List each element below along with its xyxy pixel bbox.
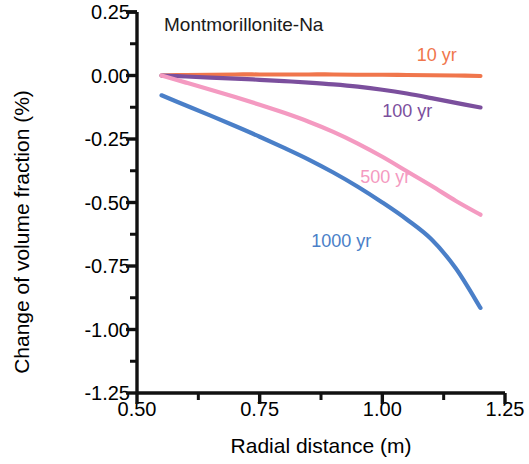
series-label-10-yr: 10 yr [417,45,457,66]
series-label-1000-yr: 1000 yr [311,231,371,252]
series-label-500-yr: 500 yr [360,167,410,188]
series-label-100-yr: 100 yr [382,101,432,122]
plot-title-annotation: Montmorillonite-Na [164,14,323,36]
